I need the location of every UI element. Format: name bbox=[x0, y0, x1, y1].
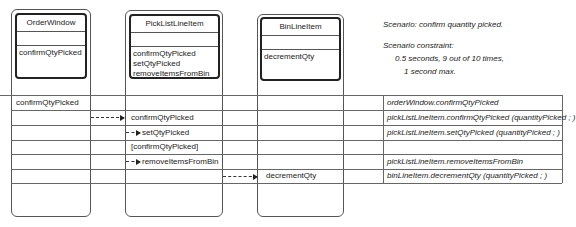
dashed-self-arrow bbox=[126, 161, 140, 162]
row-divider bbox=[11, 140, 562, 141]
dashed-arrow bbox=[91, 117, 124, 118]
description-table-right-border bbox=[562, 95, 563, 183]
class-name: OrderWindow bbox=[17, 15, 85, 32]
scenario-constraint-line1: 0.5 seconds, 9 out of 10 times, bbox=[395, 54, 504, 64]
message-description: binLineItem.decrementQty (quantityPicked… bbox=[387, 169, 547, 183]
class-operations: confirmQtyPicked setQtyPicked removeItem… bbox=[133, 49, 216, 79]
class-attributes bbox=[262, 35, 339, 50]
message-description: pickListLineItem.confirmQtyPicked (quant… bbox=[387, 111, 576, 125]
operation: removeItemsFromBin bbox=[133, 69, 216, 79]
class-attributes bbox=[17, 31, 85, 46]
message-pick-list-line-item: [confirmQtyPicked] bbox=[131, 140, 198, 154]
dashed-arrow bbox=[223, 176, 257, 177]
operation: decrementQty bbox=[264, 52, 337, 62]
message-description: pickListLineItem.setQtyPicked (quantityP… bbox=[387, 126, 560, 140]
class-attributes bbox=[131, 32, 218, 47]
operation: confirmQtyPicked bbox=[133, 49, 216, 59]
message-description: orderWindow.confirmQtyPicked bbox=[387, 96, 499, 110]
class-box-pick-list-line-item: PickListLineItem confirmQtyPicked setQty… bbox=[129, 14, 220, 79]
message-bin-line-item: decrementQty bbox=[266, 169, 316, 183]
operation: setQtyPicked bbox=[133, 59, 216, 69]
scenario-title: Scenario: confirm quantity picked. bbox=[383, 20, 503, 30]
message-pick-list-line-item: setQtyPicked bbox=[142, 126, 189, 140]
class-operations: confirmQtyPicked bbox=[19, 48, 83, 58]
operation: confirmQtyPicked bbox=[19, 48, 83, 58]
message-pick-list-line-item: confirmQtyPicked bbox=[131, 111, 194, 125]
description-table-left-border bbox=[383, 95, 384, 183]
class-operations: decrementQty bbox=[264, 52, 337, 62]
class-box-bin-line-item: BinLineItem decrementQty bbox=[260, 17, 341, 81]
message-pick-list-line-item: removeItemsFromBin bbox=[142, 155, 218, 169]
scenario-constraint-line2: 1 second max. bbox=[404, 67, 456, 77]
row-divider bbox=[11, 183, 562, 184]
class-name: BinLineItem bbox=[262, 19, 339, 36]
message-order-window: confirmQtyPicked bbox=[16, 96, 79, 110]
dashed-self-arrow bbox=[126, 132, 140, 133]
class-box-order-window: OrderWindow confirmQtyPicked bbox=[15, 13, 87, 79]
message-description: pickListLineItem.removeItemsFromBin bbox=[387, 155, 523, 169]
class-name: PickListLineItem bbox=[131, 16, 218, 33]
scenario-constraint-label: Scenario constraint: bbox=[383, 41, 454, 51]
